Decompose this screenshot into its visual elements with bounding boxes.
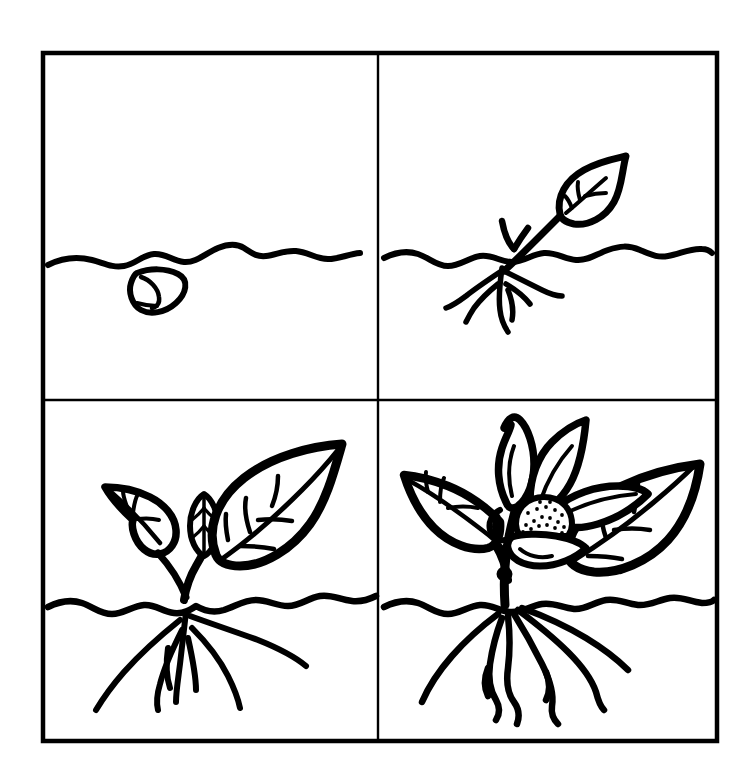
left-leaf-vein-2 — [137, 518, 159, 520]
leaf-vein-1 — [578, 182, 580, 200]
root-wave-fork-a — [485, 668, 488, 696]
left-leaf-vein-2 — [448, 507, 478, 509]
root-wave-fork-b — [546, 672, 549, 700]
large-leaf-vein-5 — [226, 514, 228, 540]
right-large-leaf-vein-2 — [614, 529, 650, 531]
small-bud — [498, 568, 511, 580]
left-leaf-vein-3 — [426, 472, 428, 492]
plant-life-cycle-illustration — [0, 0, 755, 784]
large-leaf-vein-2 — [258, 519, 292, 521]
flower-head-dome — [516, 497, 572, 536]
coloring-page-sheet: Plant Life Cycle — [0, 0, 755, 784]
root-fork-small — [167, 648, 170, 688]
